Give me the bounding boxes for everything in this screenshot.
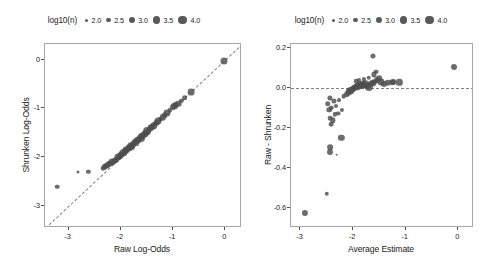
legend-dot-icon (376, 17, 382, 23)
legend-key-label: 3.0 (385, 16, 395, 25)
scatter-point (115, 156, 120, 161)
x-tick-label: -1 (401, 232, 407, 241)
x-tick-label: -1 (169, 232, 175, 241)
panel-right: log10(n) 2.02.53.03.54.0 Average Estimat… (247, 0, 495, 264)
legend-key-4.0: 4.0 (178, 16, 200, 25)
scatter-point (331, 98, 336, 103)
x-tick-label: -2 (349, 232, 355, 241)
scatter-point (325, 191, 329, 195)
legend-key-label: 4.0 (191, 16, 201, 25)
x-axis-title-left: Raw Log-Odds (114, 244, 170, 254)
scatter-point (451, 64, 457, 70)
scatter-point (174, 102, 179, 107)
figure-root: log10(n) 2.02.53.03.54.0 Raw Log-Odds Sh… (0, 0, 495, 264)
legend-key-label: 3.5 (164, 16, 174, 25)
legend-key-4.0: 4.0 (425, 16, 447, 25)
scatter-point (125, 147, 130, 152)
legend-dot-icon (129, 17, 135, 23)
scatter-point (328, 116, 333, 121)
y-axis-title-left: Shrunken Log-Odds (21, 85, 31, 185)
legend-key-2.0: 2.0 (332, 16, 348, 25)
y-tick-mark (287, 47, 290, 48)
scatter-point (337, 98, 341, 102)
legend-key-label: 4.0 (438, 16, 448, 25)
legend-dot-icon (353, 18, 357, 22)
y-tick-label: 0.0 (266, 83, 286, 92)
x-tick-mark (352, 227, 353, 230)
legend-key-3.5: 3.5 (153, 16, 173, 25)
y-tick-mark (41, 205, 44, 206)
legend-dot-icon (332, 19, 335, 22)
scatter-point (179, 98, 183, 102)
x-tick-label: -2 (117, 232, 123, 241)
x-tick-label: 0 (455, 232, 459, 241)
legend-key-label: 3.5 (411, 16, 421, 25)
legend-key-3.0: 3.0 (376, 16, 395, 25)
y-tick-mark (287, 87, 290, 88)
scatter-point (338, 134, 344, 140)
y-tick-label: -1 (20, 103, 40, 112)
legend-dot-icon (85, 19, 88, 22)
scatter-point (380, 81, 386, 87)
legend-key-label: 2.5 (114, 16, 124, 25)
legend-dot-icon (106, 18, 110, 22)
y-tick-mark (41, 156, 44, 157)
legend-key-2.5: 2.5 (353, 16, 371, 25)
scatter-point (370, 54, 375, 59)
scatter-point (137, 136, 142, 141)
legend-keys: 2.02.53.03.54.0 (85, 16, 200, 25)
y-tick-label: 0 (20, 54, 40, 63)
legend-key-2.0: 2.0 (85, 16, 101, 25)
x-tick-label: -3 (296, 232, 302, 241)
x-tick-label: -3 (64, 232, 70, 241)
scatter-point (327, 149, 333, 155)
zero-reference-line (291, 88, 473, 89)
legend-key-label: 2.0 (339, 16, 349, 25)
legend-dot-icon (178, 16, 187, 25)
scatter-point (104, 165, 108, 169)
x-tick-label: 0 (222, 232, 226, 241)
y-tick-mark (41, 107, 44, 108)
scatter-point (328, 145, 334, 151)
legend-key-2.5: 2.5 (106, 16, 124, 25)
scatter-point (86, 170, 90, 174)
x-tick-mark (299, 227, 300, 230)
x-tick-mark (68, 227, 69, 230)
scatter-point (389, 79, 395, 85)
y-tick-label: -0.6 (266, 203, 286, 212)
legend-key-3.5: 3.5 (400, 16, 420, 25)
scatter-point (374, 69, 379, 74)
scatter-point (359, 82, 365, 88)
y-tick-label: -0.2 (266, 123, 286, 132)
legend-left: log10(n) 2.02.53.03.54.0 (0, 10, 248, 30)
legend-key-3.0: 3.0 (129, 16, 148, 25)
x-tick-mark (457, 227, 458, 230)
scatter-point (187, 88, 194, 95)
scatter-point (357, 78, 361, 82)
legend-dot-icon (425, 16, 434, 25)
legend-right: log10(n) 2.02.53.03.54.0 (247, 10, 495, 30)
y-tick-label: -3 (20, 201, 40, 210)
scatter-point (108, 161, 113, 166)
scatter-point (76, 170, 79, 173)
x-tick-mark (172, 227, 173, 230)
y-tick-label: 0.2 (266, 43, 286, 52)
y-tick-mark (287, 167, 290, 168)
x-tick-mark (405, 227, 406, 230)
y-tick-label: -0.4 (266, 163, 286, 172)
legend-title: log10(n) (48, 16, 77, 25)
legend-dot-icon (153, 16, 160, 23)
scatter-point (334, 104, 338, 108)
x-tick-mark (120, 227, 121, 230)
scatter-point (335, 153, 338, 156)
scatter-point (341, 94, 346, 99)
legend-dot-icon (400, 16, 407, 23)
plot-area-left (44, 43, 241, 227)
scatter-point (302, 210, 308, 216)
plot-area-right (290, 43, 473, 227)
scatter-point (367, 75, 372, 80)
y-tick-mark (287, 127, 290, 128)
legend-key-label: 2.5 (361, 16, 371, 25)
legend-keys: 2.02.53.03.54.0 (332, 16, 447, 25)
legend-key-label: 3.0 (138, 16, 148, 25)
